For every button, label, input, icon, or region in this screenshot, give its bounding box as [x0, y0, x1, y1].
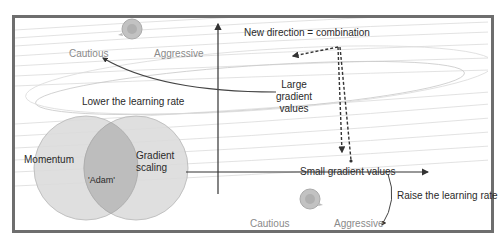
snail-icon-bottom	[300, 189, 323, 209]
venn-gradient-scaling-label: Gradient scaling	[136, 150, 174, 174]
top-aggressive-label: Aggressive	[154, 48, 203, 60]
large-gradient-line1: Large	[274, 79, 314, 91]
large-gradient-line2: gradient	[274, 91, 314, 103]
large-gradient-line3: values	[274, 103, 314, 115]
venn-right-line1: Gradient	[136, 150, 174, 162]
raise-learning-rate-label: Raise the learning rate	[397, 190, 498, 202]
top-cautious-label: Cautious	[69, 48, 108, 60]
bottom-aggressive-label: Aggressive	[334, 218, 383, 230]
bottom-cautious-label: Cautious	[250, 218, 289, 230]
snail-icon-top	[118, 19, 142, 39]
venn-momentum-label: Momentum	[24, 154, 74, 166]
lower-rate-arrow	[103, 58, 276, 92]
venn-adam-label: 'Adam'	[88, 174, 115, 186]
new-direction-label: New direction = combination	[244, 27, 370, 39]
small-gradient-label: Small gradient values	[300, 166, 396, 178]
raise-rate-arrow	[382, 174, 392, 225]
lower-learning-rate-label: Lower the learning rate	[82, 96, 184, 108]
venn-right-line2: scaling	[136, 162, 174, 174]
large-gradient-label: Large gradient values	[274, 79, 314, 115]
